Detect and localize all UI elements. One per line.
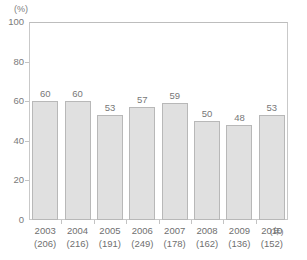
y-axis-tick-label: 0 [19, 214, 24, 225]
x-axis-category-year: 2005 [94, 224, 126, 237]
y-axis-tick-label: 80 [13, 56, 24, 67]
x-axis-unit-label: (年) [270, 225, 283, 238]
bar [226, 125, 252, 220]
bars-layer: 6060535759504853 [29, 22, 288, 220]
x-axis-category: 2005(191) [94, 224, 126, 250]
x-axis-category: 2007(178) [159, 224, 191, 250]
x-axis-category-count: (136) [223, 237, 255, 250]
bar-group: 50 [194, 22, 220, 220]
x-axis-labels: 2003(206)2004(216)2005(191)2006(249)2007… [29, 224, 288, 258]
bar-value-label: 60 [72, 88, 83, 99]
bar [97, 115, 123, 220]
y-axis-tick-label: 20 [13, 174, 24, 185]
x-axis-category: 2004(216) [61, 224, 93, 250]
bar-value-label: 53 [267, 102, 278, 113]
bar [129, 107, 155, 220]
x-axis-category-count: (178) [159, 237, 191, 250]
bar-value-label: 48 [234, 112, 245, 123]
bar [259, 115, 285, 220]
bar-value-label: 57 [137, 94, 148, 105]
bar-group: 60 [32, 22, 58, 220]
x-axis-category-year: 2009 [223, 224, 255, 237]
bar-value-label: 50 [202, 108, 213, 119]
bar-group: 53 [259, 22, 285, 220]
bar [194, 121, 220, 220]
bar-group: 57 [129, 22, 155, 220]
x-axis-category-year: 2003 [29, 224, 61, 237]
x-axis-category-count: (249) [126, 237, 158, 250]
x-axis-category-count: (206) [29, 237, 61, 250]
x-axis-category: 2008(162) [191, 224, 223, 250]
bar-group: 60 [65, 22, 91, 220]
bar-group: 59 [162, 22, 188, 220]
x-axis-category: 2006(249) [126, 224, 158, 250]
x-axis-category-count: (162) [191, 237, 223, 250]
x-axis-category-year: 2008 [191, 224, 223, 237]
bar-value-label: 60 [40, 88, 51, 99]
bar-chart: (%) 020406080100 6060535759504853 2003(2… [0, 0, 307, 260]
x-axis-category: 2009(136) [223, 224, 255, 250]
x-axis-category-year: 2004 [61, 224, 93, 237]
bar-value-label: 53 [105, 102, 116, 113]
y-axis-tick-label: 100 [8, 16, 24, 27]
bar [65, 101, 91, 220]
bar [32, 101, 58, 220]
x-axis-category-count: (152) [256, 237, 288, 250]
bar-value-label: 59 [169, 90, 180, 101]
y-axis-tick-label: 60 [13, 95, 24, 106]
x-axis-category: 2003(206) [29, 224, 61, 250]
x-axis-category-year: 2006 [126, 224, 158, 237]
x-axis-category-year: 2007 [159, 224, 191, 237]
y-axis-unit-label: (%) [14, 4, 28, 14]
y-axis-tick-label: 40 [13, 135, 24, 146]
bar-group: 48 [226, 22, 252, 220]
x-axis-category-count: (216) [61, 237, 93, 250]
bar [162, 103, 188, 220]
bar-group: 53 [97, 22, 123, 220]
x-axis-category-count: (191) [94, 237, 126, 250]
